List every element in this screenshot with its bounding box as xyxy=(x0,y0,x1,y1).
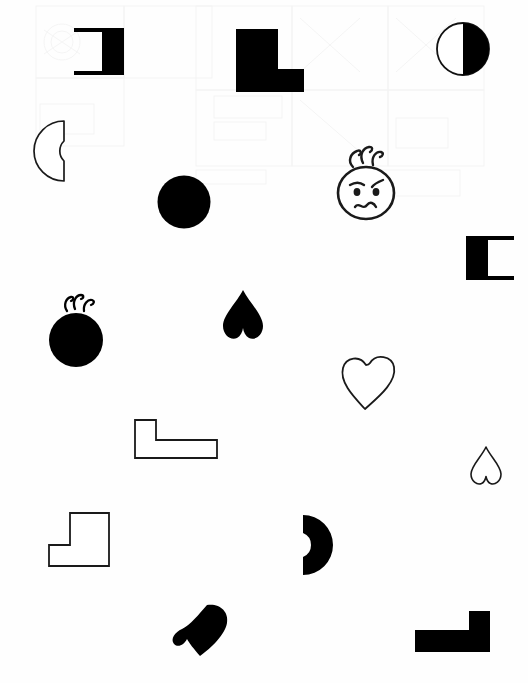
worksheet-page xyxy=(0,0,528,683)
shape-angry-face xyxy=(333,145,399,223)
shape-crescent-outline xyxy=(20,120,68,182)
shape-l-outline xyxy=(134,419,218,459)
shape-circle-half-filled xyxy=(436,22,490,76)
shape-circle-filled xyxy=(157,175,211,229)
shape-heart-outline-small xyxy=(470,446,502,486)
shape-l-filled-rotated xyxy=(415,611,490,652)
shape-crescent-filled xyxy=(301,514,337,576)
shape-heart-outline-tilted xyxy=(340,353,398,411)
shape-heart-filled-inverted xyxy=(222,289,264,341)
shape-step-outline xyxy=(48,512,110,567)
shape-heart-filled-rotated xyxy=(172,602,230,658)
shape-l-filled-large xyxy=(236,29,304,92)
shape-bracket-right xyxy=(74,28,124,75)
shape-bracket-left xyxy=(466,236,514,280)
shape-circle-with-hair xyxy=(43,293,109,367)
